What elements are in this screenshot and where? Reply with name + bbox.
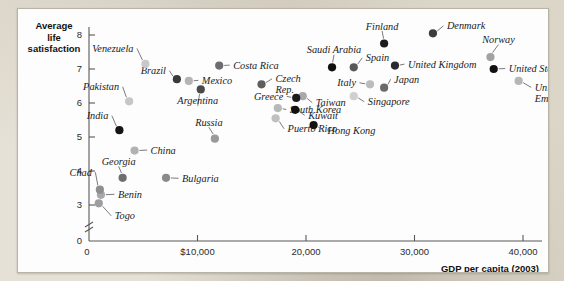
data-point[interactable]: Argentina	[176, 85, 218, 106]
data-point[interactable]: Brazil	[141, 65, 181, 83]
y-axis-tick-label: 0	[77, 235, 82, 246]
label-leader-line	[123, 87, 127, 97]
y-axis-tick-label: 7	[77, 63, 82, 74]
data-point[interactable]: United ArabEmirates	[515, 77, 548, 104]
x-axis-tick-label: 40,000	[508, 246, 537, 257]
data-point-label: Kuwait	[307, 110, 339, 121]
label-leader-line	[400, 64, 405, 65]
data-point-marker[interactable]	[130, 147, 138, 155]
data-point-label: Russia	[194, 117, 222, 128]
data-point-marker[interactable]	[119, 174, 127, 182]
data-point-marker[interactable]	[141, 60, 149, 68]
label-leader-line	[169, 71, 173, 77]
label-leader-line	[358, 58, 363, 64]
data-point-label: India	[86, 110, 109, 121]
data-point-marker[interactable]	[125, 97, 133, 105]
data-point-label: Saudi Arabia	[307, 44, 361, 55]
data-point-marker[interactable]	[272, 114, 280, 122]
data-point[interactable]: United States	[490, 63, 548, 74]
data-point-label: Chad	[70, 167, 93, 178]
data-point[interactable]: Norway	[481, 34, 515, 61]
label-leader-line	[119, 166, 122, 173]
y-axis-title-line: Average	[35, 20, 72, 31]
data-point-marker[interactable]	[380, 39, 388, 47]
data-point-label: Norway	[481, 34, 515, 45]
y-axis-title-line: life	[47, 32, 61, 43]
data-point-label: Italy	[336, 77, 356, 88]
data-point-marker[interactable]	[328, 63, 336, 71]
data-point-marker[interactable]	[95, 199, 103, 207]
data-point-marker[interactable]	[215, 62, 223, 70]
data-point-marker[interactable]	[391, 62, 399, 70]
data-point-marker[interactable]	[429, 29, 437, 37]
label-leader-line	[266, 79, 272, 83]
y-axis-tick-label: 5	[77, 131, 82, 142]
data-point[interactable]: Pakistan	[82, 81, 133, 105]
data-point-label: Mexico	[201, 75, 232, 86]
y-axis-tick-label: 8	[77, 29, 82, 40]
label-leader-line	[307, 98, 312, 102]
data-point-marker[interactable]	[185, 77, 193, 85]
data-point-marker[interactable]	[350, 63, 358, 71]
data-point-marker[interactable]	[515, 77, 523, 85]
data-point-marker[interactable]	[486, 53, 494, 61]
data-point-label: Taiwan	[316, 97, 346, 108]
data-point-marker[interactable]	[173, 75, 181, 83]
data-point-label: Pakistan	[82, 81, 119, 92]
data-point-marker[interactable]	[115, 126, 123, 134]
data-point-marker[interactable]	[257, 80, 265, 88]
data-point-marker[interactable]	[380, 84, 388, 92]
data-point-label: Georgia	[102, 156, 136, 167]
y-axis-tick-label: 3	[77, 199, 82, 210]
data-point-label: Rep.	[275, 84, 295, 95]
data-point[interactable]: Costa Rica	[215, 60, 279, 71]
scatter-plot: 03456780$10,00020,00030,00040,000Average…	[18, 9, 548, 272]
data-point-marker[interactable]	[274, 104, 282, 112]
data-point[interactable]: Togo	[95, 199, 135, 221]
data-point[interactable]: United Kingdom	[391, 59, 476, 70]
data-point-marker[interactable]	[309, 121, 317, 129]
scatter-plot-svg: 03456780$10,00020,00030,00040,000Average…	[18, 9, 548, 272]
data-point-marker[interactable]	[350, 92, 358, 100]
label-leader-line	[287, 96, 292, 97]
data-point-marker[interactable]	[490, 65, 498, 73]
data-point[interactable]: Bulgaria	[162, 173, 219, 184]
data-point[interactable]: India	[86, 110, 124, 134]
label-leader-line	[112, 116, 117, 127]
data-point-label: United Kingdom	[408, 59, 476, 70]
data-point-marker[interactable]	[96, 186, 104, 194]
data-point-label: Finland	[365, 21, 399, 32]
label-leader-line	[382, 31, 383, 39]
data-point[interactable]: Finland	[365, 21, 399, 48]
y-axis-tick-label: 6	[77, 97, 82, 108]
label-leader-line	[523, 83, 531, 88]
data-point-marker[interactable]	[211, 135, 219, 143]
data-point-label: Benin	[118, 189, 142, 200]
data-point[interactable]: China	[130, 145, 175, 156]
x-axis-tick-label: 30,000	[400, 246, 429, 257]
data-point-label: United Arab	[535, 82, 548, 93]
data-point-label: Costa Rica	[233, 60, 278, 71]
data-point[interactable]: Japan	[380, 74, 419, 92]
data-point[interactable]: Russia	[194, 117, 222, 143]
data-point[interactable]: Mexico	[185, 75, 232, 86]
data-point[interactable]: Singapore	[350, 92, 410, 107]
data-point-label: Emirates	[534, 93, 548, 104]
label-leader-line	[283, 109, 287, 110]
data-point[interactable]: Italy	[336, 77, 374, 88]
data-point-label: Venezuela	[92, 43, 133, 54]
data-point-marker[interactable]	[162, 174, 170, 182]
data-point[interactable]: Denmark	[429, 20, 486, 37]
data-point-label: Bulgaria	[182, 173, 219, 184]
label-leader-line	[360, 83, 366, 84]
data-point[interactable]: Georgia	[102, 156, 136, 182]
x-axis-tick-label: $10,000	[180, 246, 214, 257]
data-point-label: Spain	[366, 52, 389, 63]
data-point[interactable]: Chad	[70, 167, 104, 194]
data-point-label: Singapore	[368, 96, 410, 107]
data-point-marker[interactable]	[197, 85, 205, 93]
figure-panel: 03456780$10,00020,00030,00040,000Average…	[17, 8, 549, 273]
data-point-marker[interactable]	[366, 80, 374, 88]
y-axis-title-line: satisfaction	[28, 43, 81, 54]
data-point-marker[interactable]	[291, 106, 299, 114]
